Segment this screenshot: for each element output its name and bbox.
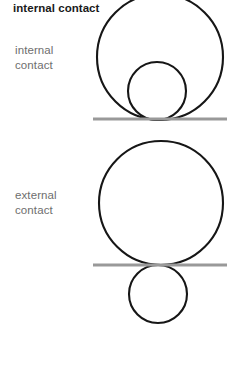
external-contact-panel [93,141,227,323]
external-contact-label: external contact [15,188,57,218]
figure-title: internal contact [13,1,99,16]
internal-contact-label: internal contact [15,43,54,73]
external-big-circle [99,141,223,265]
internal-small-circle [128,62,186,120]
internal-big-circle [97,0,223,120]
external-small-circle [129,265,187,323]
contact-diagram-figure: internal contact internal contact extern… [0,0,235,366]
internal-contact-panel [93,0,227,120]
